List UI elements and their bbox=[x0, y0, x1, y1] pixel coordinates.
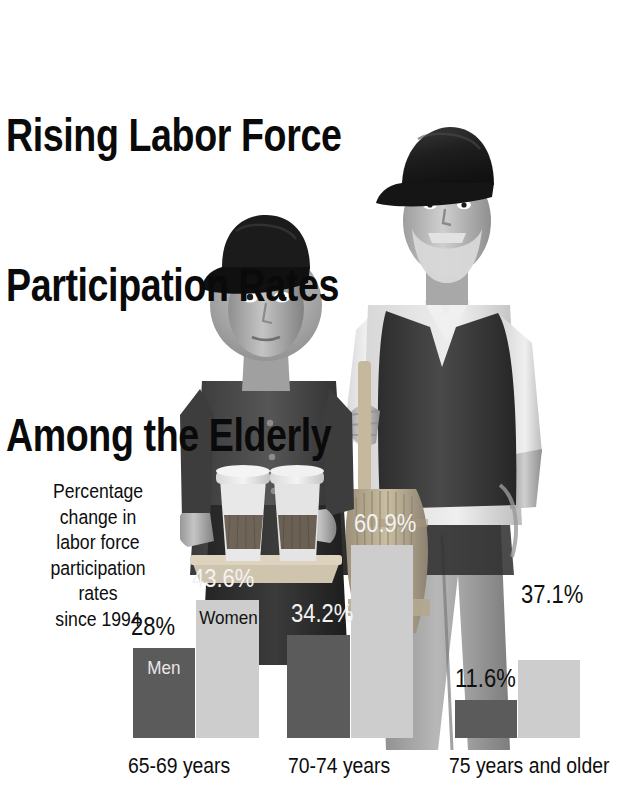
bar-men-65-69[interactable]: Men bbox=[133, 648, 195, 738]
title-line-2: Participation Rates bbox=[6, 260, 350, 310]
caption-line-6: since 1994 bbox=[38, 606, 158, 632]
caption-line-5: rates bbox=[38, 580, 158, 606]
xaxis-label-70-74: 70-74 years bbox=[288, 754, 390, 778]
value-label-women-70-74: 60.9% bbox=[354, 511, 416, 536]
title-line-3: Among the Elderly bbox=[6, 410, 350, 460]
bar-men-75-older[interactable] bbox=[455, 700, 517, 738]
legend-label-women: Women bbox=[199, 608, 256, 627]
title-line-1: Rising Labor Force bbox=[6, 110, 350, 160]
caption-line-2: change in bbox=[38, 504, 158, 530]
bar-women-75-older[interactable] bbox=[518, 660, 580, 738]
infographic-poster: Rising Labor Force Participation Rates A… bbox=[0, 0, 617, 792]
xaxis-label-65-69: 65-69 years bbox=[128, 754, 230, 778]
legend-label-men: Men bbox=[136, 658, 192, 677]
xaxis-label-75-older: 75 years and older bbox=[449, 754, 609, 778]
value-label-men-70-74: 34.2% bbox=[291, 601, 353, 626]
caption-line-3: labor force bbox=[38, 529, 158, 555]
value-label-men-75-older: 11.6% bbox=[455, 666, 516, 691]
value-label-women-75-older: 37.1% bbox=[521, 582, 583, 607]
bar-women-65-69[interactable]: Women bbox=[196, 600, 259, 738]
bar-women-70-74[interactable] bbox=[351, 545, 413, 738]
chart-caption: Percentage change in labor force partici… bbox=[38, 478, 158, 631]
bar-men-70-74[interactable] bbox=[287, 635, 350, 738]
caption-line-4: participation bbox=[38, 555, 158, 581]
caption-line-1: Percentage bbox=[38, 478, 158, 504]
value-label-women-65-69: 43.6% bbox=[192, 566, 254, 591]
